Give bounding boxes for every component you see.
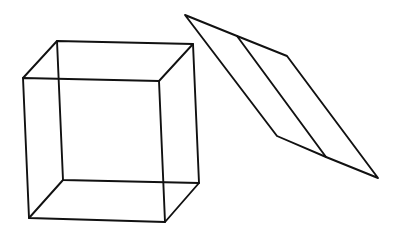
cube-back-face [57,41,199,183]
cube-edge-top-left [23,41,57,78]
figure-canvas [0,0,397,234]
flat-parallelogram-prism [185,15,378,178]
cube-edge-top-right [159,44,193,81]
figure-svg [0,0,397,234]
cube-edge-bottom-left [29,180,63,218]
cube-edge-bottom-right [165,183,199,222]
wireframe-cube [23,41,199,222]
